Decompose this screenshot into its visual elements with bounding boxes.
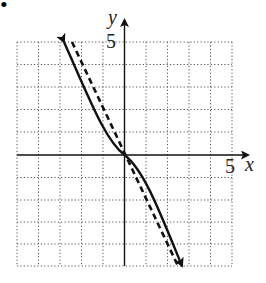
coordinate-plane bbox=[0, 0, 266, 283]
y-axis-label: y bbox=[108, 6, 117, 29]
x-axis-label: x bbox=[245, 153, 254, 176]
y-tick-label-5: 5 bbox=[106, 30, 116, 53]
x-tick-label-5: 5 bbox=[225, 155, 235, 178]
solid-curve bbox=[64, 42, 182, 266]
